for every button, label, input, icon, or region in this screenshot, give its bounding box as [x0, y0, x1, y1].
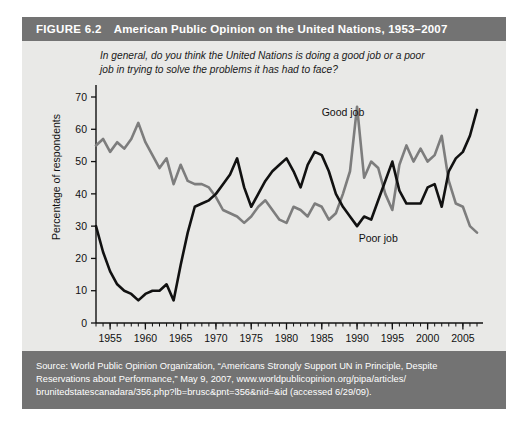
source-line-3: brunitedstatescanadara/356.php?lb=brusc&… — [36, 386, 492, 399]
x-tick-label: 2005 — [451, 332, 475, 344]
series-label-good-job: Good job — [322, 106, 365, 118]
source-note: Source: World Public Opinion Organizatio… — [22, 351, 506, 409]
source-line-2: Reservations about Performance,” May 9, … — [36, 373, 492, 386]
figure-header: FIGURE 6.2 American Public Opinion on th… — [22, 17, 506, 41]
y-tick-label: 30 — [75, 220, 87, 232]
figure-panel: FIGURE 6.2 American Public Opinion on th… — [22, 17, 506, 409]
x-tick-label: 1960 — [134, 332, 158, 344]
y-tick-label: 40 — [75, 188, 87, 200]
series-label-poor-job: Poor job — [359, 232, 398, 244]
source-line-1: Source: World Public Opinion Organizatio… — [36, 360, 492, 373]
y-tick-label: 0 — [81, 317, 87, 329]
series-line-poor-job — [96, 110, 477, 300]
x-tick-label: 2000 — [416, 332, 440, 344]
x-tick-label: 1995 — [381, 332, 405, 344]
x-tick-label: 1985 — [310, 332, 334, 344]
x-tick-label: 1980 — [275, 332, 299, 344]
figure-number: FIGURE 6.2 — [36, 23, 102, 35]
x-tick-label: 1955 — [98, 332, 122, 344]
y-tick-label: 70 — [75, 91, 87, 103]
x-tick-label: 1990 — [345, 332, 369, 344]
series-line-good-job — [96, 107, 477, 233]
figure-title: American Public Opinion on the United Na… — [114, 23, 448, 35]
chart-body: In general, do you think the United Nati… — [22, 41, 506, 351]
y-tick-label: 10 — [75, 284, 87, 296]
x-tick-label: 1970 — [204, 332, 228, 344]
y-tick-label: 50 — [75, 155, 87, 167]
y-tick-label: 60 — [75, 123, 87, 135]
x-tick-label: 1965 — [169, 332, 193, 344]
line-chart-plot: 0102030405060701955196019651970197519801… — [22, 41, 506, 351]
x-tick-label: 1975 — [240, 332, 264, 344]
y-tick-label: 20 — [75, 252, 87, 264]
